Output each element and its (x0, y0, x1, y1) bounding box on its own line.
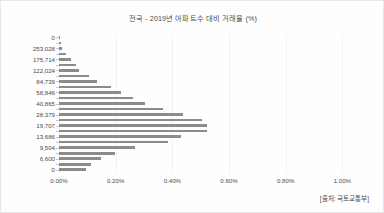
bar (59, 135, 181, 138)
y-tickmark (56, 59, 59, 60)
x-tick-label: 0.80% (277, 177, 294, 184)
x-tick-label: 0.60% (220, 177, 237, 184)
bar (59, 168, 86, 171)
y-tick-label: 0 (1, 167, 55, 173)
bar (59, 124, 207, 127)
y-tickmark (56, 54, 59, 55)
y-tickmark (56, 131, 59, 132)
bar (59, 91, 121, 94)
bar (59, 157, 101, 160)
y-tickmark (56, 70, 59, 71)
y-tickmark (56, 148, 59, 149)
bar (59, 108, 163, 111)
x-tick-label: 0.20% (107, 177, 124, 184)
y-tickmark (56, 43, 59, 44)
bar (59, 113, 183, 116)
y-tickmark (56, 37, 59, 38)
y-tick-label: 84,739 (1, 79, 55, 85)
y-tick-label: 0 (1, 35, 55, 41)
y-tickmark (56, 98, 59, 99)
y-tick-label: 19,707 (1, 123, 55, 129)
y-tickmark (56, 126, 59, 127)
chart-title: 전국 - 2019년 아파트수 대비 거래율 (%) (1, 13, 384, 23)
bar (59, 130, 207, 133)
y-tick-label: 6,600 (1, 156, 55, 162)
y-tickmark (56, 170, 59, 171)
bar (59, 47, 62, 50)
bar (59, 97, 133, 100)
x-tick-label: 0.00% (50, 177, 67, 184)
y-tickmark (56, 164, 59, 165)
y-tickmark (56, 87, 59, 88)
x-tick-label: 0.40% (164, 177, 181, 184)
y-tickmark (56, 120, 59, 121)
bar (59, 80, 97, 83)
bar (59, 58, 71, 61)
bar (59, 141, 168, 144)
y-tick-label: 28,379 (1, 112, 55, 118)
y-tickmark (56, 115, 59, 116)
y-tick-label: 58,846 (1, 90, 55, 96)
y-tickmark (56, 137, 59, 138)
y-tick-label: 122,024 (1, 68, 55, 74)
bar-row (59, 167, 365, 173)
y-tick-label: 253,028 (1, 46, 55, 52)
bar (59, 146, 135, 149)
bar (59, 69, 79, 72)
y-tickmark (56, 48, 59, 49)
y-tickmark (56, 81, 59, 82)
bar (59, 53, 66, 56)
y-tickmark (56, 109, 59, 110)
y-tickmark (56, 76, 59, 77)
y-tickmark (56, 142, 59, 143)
bar (59, 163, 91, 166)
y-tick-label: 13,686 (1, 134, 55, 140)
y-tick-label: 9,504 (1, 145, 55, 151)
y-tick-label: 40,865 (1, 101, 55, 107)
chart-figure: 전국 - 2019년 아파트수 대비 거래율 (%) 0253,028175,7… (0, 0, 384, 213)
y-tick-label: 175,714 (1, 57, 55, 63)
bar (59, 75, 89, 78)
x-tick-label: 1.00% (334, 177, 351, 184)
y-tickmark (56, 92, 59, 93)
source-note: [출처: 국토교통부] (320, 193, 369, 203)
x-axis-tick-labels: 0.00%0.20%0.40%0.60%0.80%1.00% (59, 177, 365, 189)
bar (59, 64, 76, 67)
y-axis-tick-labels: 0253,028175,714122,02484,73958,84640,865… (1, 35, 55, 173)
bar (59, 86, 111, 89)
bar (59, 119, 202, 122)
bar (59, 42, 61, 45)
y-tickmark (56, 153, 59, 154)
y-tickmark (56, 65, 59, 66)
plot-area (59, 35, 365, 173)
bar (59, 36, 60, 39)
y-tickmark (56, 104, 59, 105)
bar (59, 152, 115, 155)
y-tickmark (56, 159, 59, 160)
bar (59, 102, 145, 105)
